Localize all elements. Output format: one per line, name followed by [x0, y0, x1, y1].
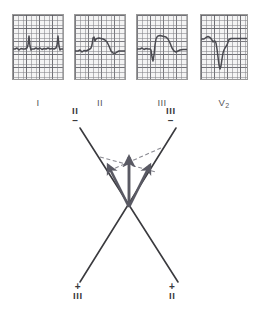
axis-label-lead-II-negative: II –	[72, 106, 78, 125]
ecg-strip-lead-II: II	[74, 14, 126, 80]
ecg-strip-panel: I II III V2	[0, 0, 260, 102]
ecg-strip-lead-V2: V2	[200, 14, 248, 80]
lead-axis-vector-diagram: II – III – + III + II	[0, 100, 260, 310]
ecg-trace-lead-II	[75, 15, 126, 80]
ecg-grid-lead-V2	[200, 14, 248, 80]
axis-label-lead-III-positive: + III	[73, 282, 83, 301]
ecg-trace-lead-III	[137, 15, 188, 80]
axis-label-lead-III-negative: III –	[166, 106, 176, 125]
axis-label-tl-sign: –	[72, 116, 78, 125]
axis-label-br-text: II	[169, 290, 175, 301]
ecg-trace-lead-I	[13, 15, 64, 80]
axis-label-tr-sign: –	[166, 116, 176, 125]
axis-label-lead-II-positive: + II	[169, 282, 175, 301]
ecg-trace-lead-V2	[201, 15, 248, 80]
ecg-grid-lead-III	[136, 14, 188, 80]
ecg-strip-lead-I: I	[12, 14, 64, 80]
dashed-construction-line-2	[111, 148, 161, 170]
lead-II-component-vector-arrow	[108, 165, 129, 207]
lead-III-component-vector-arrow	[129, 165, 150, 207]
ecg-grid-lead-II	[74, 14, 126, 80]
ecg-grid-lead-I	[12, 14, 64, 80]
ecg-strip-lead-III: III	[136, 14, 188, 80]
axis-label-bl-text: III	[73, 290, 83, 301]
vector-diagram-canvas	[0, 100, 260, 310]
